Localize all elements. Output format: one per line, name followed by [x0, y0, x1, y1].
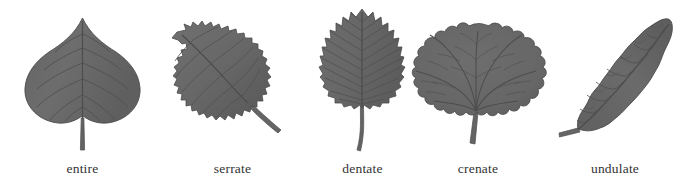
leaf-figure-undulate: undulate [540, 0, 690, 189]
leaf-illustration-undulate [540, 0, 690, 160]
petiole-dentate [357, 105, 364, 151]
leaf-label-dentate: dentate [300, 162, 425, 176]
leaf-blade-undulate [577, 19, 672, 131]
leaf-label-entire: entire [0, 162, 165, 176]
leaf-figure-crenate: crenate [408, 0, 548, 189]
leaf-illustration-entire [0, 0, 165, 160]
leaf-label-crenate: crenate [408, 162, 548, 176]
leaf-illustration-dentate [300, 0, 425, 160]
leaf-margin-diagram: entire [0, 0, 690, 189]
petiole-crenate [470, 112, 478, 144]
leaf-figure-dentate: dentate [300, 0, 425, 189]
leaf-figure-serrate: serrate [160, 0, 305, 189]
petiole-entire [80, 118, 84, 150]
leaf-label-serrate: serrate [160, 162, 305, 176]
petiole-undulate [559, 128, 580, 137]
leaf-blade-serrate [172, 21, 271, 120]
leaf-illustration-crenate [408, 0, 548, 160]
leaf-illustration-serrate [160, 0, 305, 160]
leaf-figure-entire: entire [0, 0, 165, 189]
leaf-label-undulate: undulate [540, 162, 690, 176]
